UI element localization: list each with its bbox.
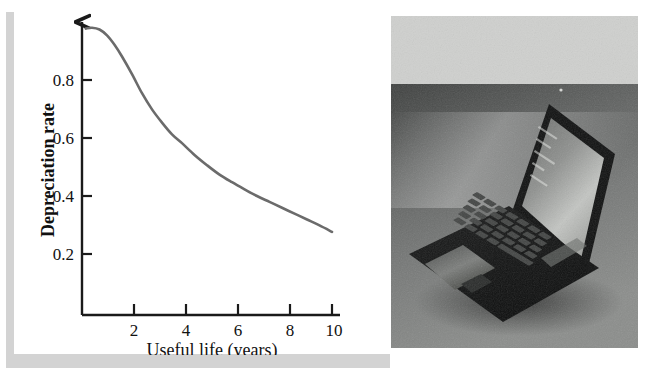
y-axis-title: Depreciation rate [38,103,58,237]
laptop-photograph [391,16,638,348]
x-tick-label-1: 4 [182,321,191,340]
x-tick-label-4: 10 [326,321,343,340]
x-axis-title: Useful life (years) [147,340,278,355]
photo-grain [391,16,638,348]
depreciation-rate-chart: 0.8 0.6 0.4 0.2 2 4 6 8 10 [20,0,370,355]
figure-root: 0.8 0.6 0.4 0.2 2 4 6 8 10 [0,0,648,390]
x-axis-tick-labels: 2 4 6 8 10 [130,321,343,340]
x-tick-label-3: 8 [286,321,295,340]
vertical-gray-rule [6,12,14,362]
chart-svg: 0.8 0.6 0.4 0.2 2 4 6 8 10 [20,0,370,355]
laptop-photo-svg [391,16,638,348]
y-tick-label-0: 0.8 [53,71,74,90]
x-axis-ticks [134,304,332,315]
horizontal-gray-rule [6,354,390,368]
depreciation-rate-curve [86,28,332,232]
y-tick-label-3: 0.2 [53,245,74,264]
x-tick-label-0: 2 [130,321,139,340]
y-axis-ticks [82,80,92,254]
x-tick-label-2: 6 [234,321,243,340]
